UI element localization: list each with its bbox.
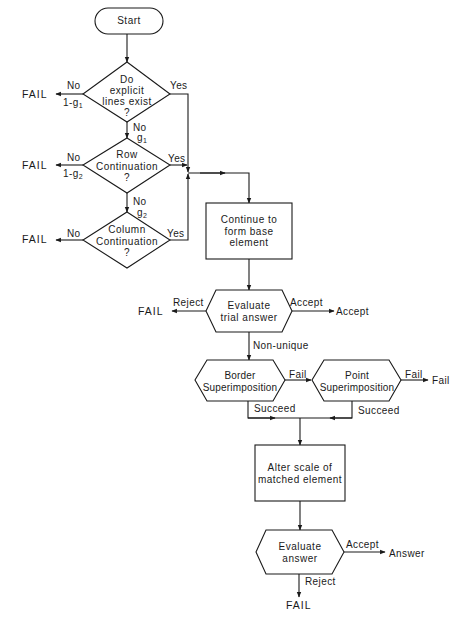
fail-terminal-3: FAIL	[22, 234, 48, 245]
point-succeed-label: Succeed	[358, 405, 400, 416]
form-base-text: Continue to form base element	[221, 214, 278, 249]
d1-no-label: No	[67, 80, 81, 91]
fail-terminal-1: FAIL	[22, 89, 48, 100]
column-continuation-question: Column Continuation ?	[96, 224, 158, 259]
d2-no-label: No	[67, 152, 81, 163]
d1-down-prob: g1	[137, 132, 147, 146]
d2-no-prob: 1-g2	[63, 168, 83, 182]
border-succeed-label: Succeed	[254, 403, 296, 414]
d2-down-no: No	[133, 196, 147, 207]
accept-terminal: Accept	[336, 306, 369, 317]
explicit-lines-question: Do explicit lines exist ?	[102, 74, 151, 118]
point-superimposition-text: Point Superimposition	[320, 370, 395, 393]
trial-nonunique-label: Non-unique	[253, 340, 309, 351]
border-superimposition-text: Border Superimposition	[203, 370, 278, 393]
trial-reject-label: Reject	[173, 297, 204, 308]
d1-no-prob: 1-g1	[63, 97, 83, 111]
fail-terminal-2: FAIL	[22, 160, 48, 171]
alter-scale-text: Alter scale of matched element	[258, 462, 342, 485]
start-label: Start	[117, 15, 141, 27]
answer-reject-label: Reject	[305, 576, 336, 587]
point-fail-label: Fail	[405, 369, 423, 380]
trial-accept-label: Accept	[290, 297, 323, 308]
evaluate-answer-text: Evaluate answer	[279, 541, 322, 564]
row-continuation-question: Row Continuation ?	[96, 149, 158, 184]
d1-yes-label: Yes	[170, 80, 188, 91]
evaluate-trial-text: Evaluate trial answer	[220, 300, 277, 323]
border-fail-label: Fail	[289, 369, 307, 380]
fail-final-terminal: FAIL	[286, 600, 312, 611]
d3-no-label: No	[67, 228, 81, 239]
fail-point-terminal: Fail	[432, 375, 450, 386]
d2-down-prob: g2	[137, 207, 147, 221]
answer-terminal: Answer	[389, 548, 425, 559]
fail-terminal-4: FAIL	[138, 306, 164, 317]
d2-yes-label: Yes	[168, 153, 186, 164]
answer-accept-label: Accept	[346, 539, 379, 550]
d3-yes-label: Yes	[167, 228, 185, 239]
